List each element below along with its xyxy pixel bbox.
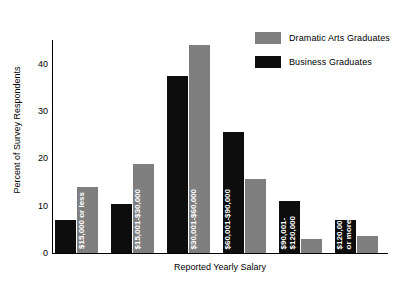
y-axis-tick-label: 40 [26, 60, 48, 69]
bar-group: $15,001-$30,000 [111, 40, 154, 253]
bar: $120,001 or more [335, 220, 356, 253]
legend-swatch [255, 32, 281, 44]
legend-swatch [255, 56, 281, 68]
bar: $30,001-$60,000 [189, 45, 210, 253]
y-axis-title: Percent of Survey Respondents [10, 60, 24, 200]
legend-label: Business Graduates [289, 57, 372, 67]
category-label: $15,000 or less [77, 192, 98, 249]
y-axis-tick-label: 10 [26, 202, 48, 211]
legend-item: Business Graduates [255, 52, 405, 72]
y-axis-tick-label: 0 [26, 249, 48, 258]
bar [111, 204, 132, 253]
category-label: $90,001- $120,000 [279, 216, 300, 249]
bar: $60,001-$90,000 [223, 132, 244, 253]
bar: $15,001-$30,000 [133, 164, 154, 253]
bar [245, 179, 266, 253]
y-axis-tick-label: 20 [26, 154, 48, 163]
bar-group: $30,001-$60,000 [167, 40, 210, 253]
bar: $15,000 or less [77, 187, 98, 253]
legend: Dramatic Arts GraduatesBusiness Graduate… [255, 28, 405, 76]
bar: $90,001- $120,000 [279, 201, 300, 253]
category-label: $30,001-$60,000 [189, 189, 210, 250]
bar [167, 76, 188, 253]
y-axis-tick-label: 30 [26, 107, 48, 116]
category-label: $15,001-$30,000 [133, 189, 154, 250]
legend-item: Dramatic Arts Graduates [255, 28, 405, 48]
bar-chart: Percent of Survey Respondents 010203040 … [0, 0, 407, 292]
bar [55, 220, 76, 253]
x-axis-line [52, 253, 388, 254]
x-axis-title: Reported Yearly Salary [52, 262, 388, 273]
legend-label: Dramatic Arts Graduates [289, 33, 390, 43]
bar [301, 239, 322, 253]
category-label: $120,001 or more [335, 216, 356, 249]
category-label: $60,001-$90,000 [223, 189, 244, 250]
bar-group: $15,000 or less [55, 40, 98, 253]
bar [357, 236, 378, 254]
